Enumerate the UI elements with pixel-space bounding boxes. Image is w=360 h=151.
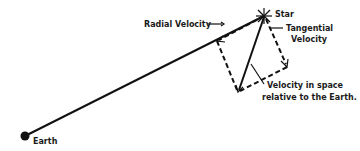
tangential-velocity-arrow xyxy=(266,19,286,64)
tangential-velocity-label-2: Velocity xyxy=(291,35,328,44)
tangential-velocity-label-1: Tangential xyxy=(286,24,333,33)
tangential-arrowhead xyxy=(281,59,288,67)
earth-label: Earth xyxy=(33,137,58,146)
radial-velocity-label: Radial Velocity xyxy=(144,20,212,29)
star-label: Star xyxy=(275,10,294,19)
diagram-canvas: Star Radial Velocity Tangential Velocity… xyxy=(0,0,360,151)
space-velocity-label-1: Velocity in space xyxy=(267,81,344,90)
star-velocity-diagram: Star Radial Velocity Tangential Velocity… xyxy=(0,0,360,151)
earth-icon xyxy=(21,132,30,141)
parallelogram-left-side xyxy=(217,41,237,90)
space-velocity-label-2: relative to the Earth. xyxy=(262,93,357,102)
